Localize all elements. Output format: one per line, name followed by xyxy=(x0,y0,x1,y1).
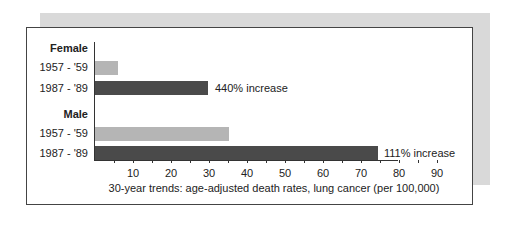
bar-male-1987 xyxy=(95,146,378,160)
x-axis-label: 30-year trends: age-adjusted death rates… xyxy=(94,182,454,194)
x-tick-label-50: 50 xyxy=(273,167,297,179)
x-tick-label-70: 70 xyxy=(349,167,373,179)
x-tick-minor xyxy=(228,160,229,163)
x-tick-label-10: 10 xyxy=(121,167,145,179)
x-tick-minor xyxy=(304,160,305,163)
row-label-male-1987: 1987 - '89 xyxy=(30,147,88,159)
x-tick-label-80: 80 xyxy=(387,167,411,179)
x-tick-80 xyxy=(399,160,400,163)
x-tick-60 xyxy=(323,160,324,163)
x-tick-20 xyxy=(171,160,172,163)
x-axis-line xyxy=(94,160,378,161)
bar-female-1987 xyxy=(95,81,208,95)
x-tick-label-20: 20 xyxy=(159,167,183,179)
x-tick-label-30: 30 xyxy=(197,167,221,179)
bar-male-1957 xyxy=(95,127,229,141)
x-tick-40 xyxy=(247,160,248,163)
group-label-female: Female xyxy=(30,42,88,54)
annotation-female-increase: 440% increase xyxy=(215,82,288,94)
x-tick-90 xyxy=(437,160,438,163)
x-tick-label-90: 90 xyxy=(425,167,449,179)
row-label-male-1957: 1957 - '59 xyxy=(30,127,88,139)
x-tick-minor xyxy=(114,160,115,163)
x-tick-minor xyxy=(342,160,343,163)
x-tick-50 xyxy=(285,160,286,163)
x-tick-minor xyxy=(380,160,381,163)
x-tick-minor xyxy=(152,160,153,163)
group-label-male: Male xyxy=(30,108,88,120)
bar-female-1957 xyxy=(95,61,118,75)
x-tick-minor xyxy=(190,160,191,163)
row-label-female-1957: 1957 - '59 xyxy=(30,61,88,73)
x-tick-10 xyxy=(133,160,134,163)
annotation-male-increase: 111% increase xyxy=(384,147,455,159)
x-tick-70 xyxy=(361,160,362,163)
x-tick-minor xyxy=(266,160,267,163)
x-tick-label-40: 40 xyxy=(235,167,259,179)
row-label-female-1987: 1987 - '89 xyxy=(30,82,88,94)
x-tick-minor xyxy=(418,160,419,163)
x-axis-line-extension xyxy=(378,160,398,161)
x-tick-30 xyxy=(209,160,210,163)
y-axis-line xyxy=(94,42,95,161)
x-tick-label-60: 60 xyxy=(311,167,335,179)
